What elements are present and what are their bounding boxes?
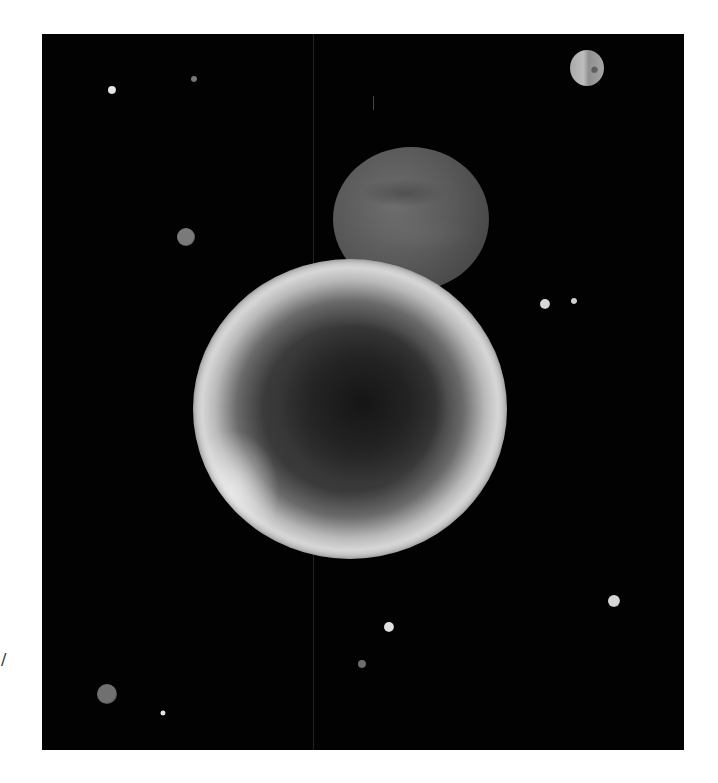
edge-mark: / [1, 650, 11, 670]
star [384, 622, 394, 632]
space-scene [42, 34, 684, 750]
star [108, 86, 116, 94]
star [608, 595, 620, 607]
star [540, 299, 550, 309]
star [97, 684, 117, 704]
star [358, 660, 366, 668]
front-planet [193, 259, 507, 559]
star [571, 298, 577, 304]
star [161, 711, 166, 716]
light-streak [373, 96, 374, 110]
small-moon [570, 50, 604, 86]
star [191, 76, 197, 82]
star [177, 228, 195, 246]
